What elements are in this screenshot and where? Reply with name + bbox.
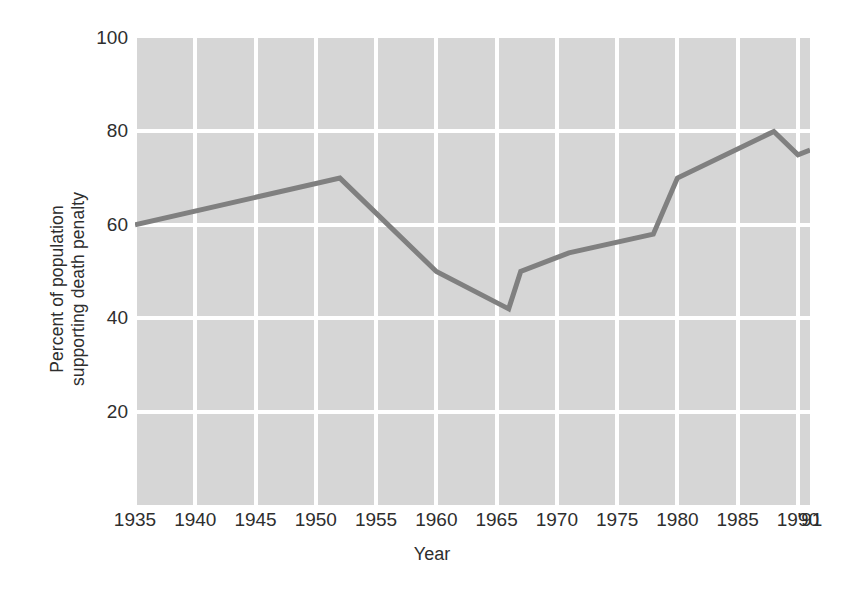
x-tick-label: 1950	[295, 509, 337, 531]
y-tick-label: 60	[28, 215, 128, 234]
x-tick-label: 1970	[536, 509, 578, 531]
x-tick-label: 1980	[656, 509, 698, 531]
x-tick-label: 1935	[114, 509, 156, 531]
plot-area	[135, 38, 810, 505]
x-tick-label: 1945	[234, 509, 276, 531]
x-tick-label: 1955	[355, 509, 397, 531]
y-tick-label: 20	[28, 402, 128, 421]
y-tick-label: 40	[28, 308, 128, 327]
x-axis-title: Year	[0, 544, 864, 565]
x-tick-label: 1965	[475, 509, 517, 531]
x-axis-ticks: 1935194019451950195519601965197019751980…	[0, 509, 864, 539]
y-axis-ticks: 20406080100	[20, 0, 128, 589]
x-tick-label: 1975	[596, 509, 638, 531]
x-tick-label: 1960	[415, 509, 457, 531]
y-tick-label: 80	[28, 121, 128, 140]
x-tick-label: 1985	[717, 509, 759, 531]
chart-figure: Percent of population supporting death p…	[0, 0, 864, 589]
x-tick-label: '91	[798, 509, 823, 531]
data-series-line	[135, 38, 810, 505]
y-tick-label: 100	[28, 28, 128, 47]
x-tick-label: 1940	[174, 509, 216, 531]
